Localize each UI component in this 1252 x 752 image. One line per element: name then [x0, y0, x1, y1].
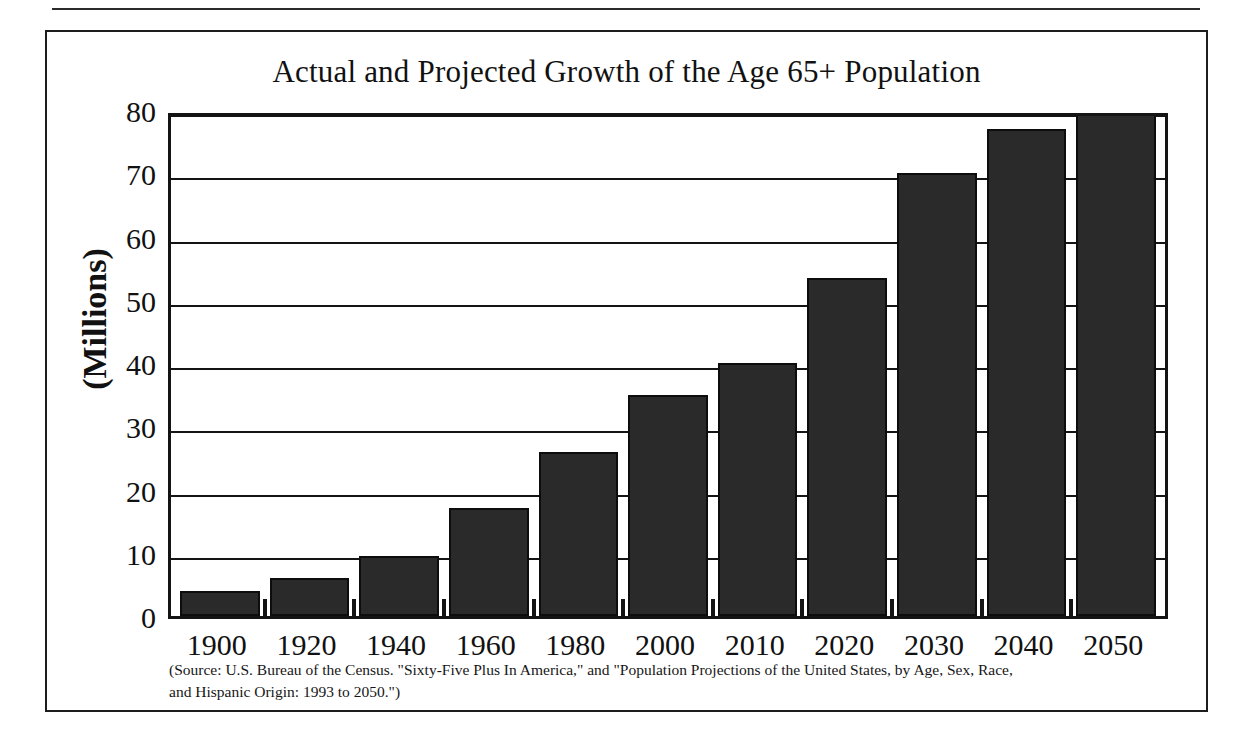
x-axis-tick [980, 599, 984, 616]
source-note-line-2: and Hispanic Origin: 1993 to 2050.") [169, 681, 1179, 703]
bar-1900 [180, 591, 260, 616]
page-top-rule [52, 8, 1200, 10]
y-axis-tick-label: 40 [72, 350, 156, 380]
source-note-line-1: (Source: U.S. Bureau of the Census. "Six… [169, 659, 1179, 681]
x-axis-tick-label: 1960 [434, 628, 538, 662]
x-axis-tick-label: 2020 [792, 628, 896, 662]
chart-title: Actual and Projected Growth of the Age 6… [47, 54, 1206, 90]
y-axis-tick-label: 70 [72, 160, 156, 190]
x-axis-tick-label: 1940 [344, 628, 448, 662]
x-axis-tick-label: 2010 [703, 628, 807, 662]
x-axis-tick-label: 2050 [1061, 628, 1165, 662]
bar-2010 [718, 363, 798, 616]
bar-1920 [270, 578, 350, 616]
x-axis-tick-label: 1900 [165, 628, 269, 662]
bar-2020 [807, 278, 887, 616]
y-axis-tick-label: 50 [72, 287, 156, 317]
x-axis-tick [1069, 599, 1073, 616]
x-axis-tick-label: 1920 [255, 628, 359, 662]
y-axis-tick-label: 60 [72, 224, 156, 254]
y-axis-tick-label: 20 [72, 477, 156, 507]
x-axis-tick [442, 599, 446, 616]
x-axis-tick [352, 599, 356, 616]
x-axis-tick [890, 599, 894, 616]
bar-2030 [897, 173, 977, 616]
bar-2050 [1076, 116, 1156, 616]
x-axis-tick-label: 2030 [882, 628, 986, 662]
y-axis-tick-label: 80 [72, 97, 156, 127]
bar-2040 [987, 129, 1067, 616]
bar-1940 [359, 556, 439, 616]
bar-2000 [628, 395, 708, 616]
source-note: (Source: U.S. Bureau of the Census. "Six… [169, 659, 1179, 704]
figure-container: Actual and Projected Growth of the Age 6… [45, 30, 1208, 712]
x-axis-tick-label: 2000 [613, 628, 717, 662]
x-axis-tick [800, 599, 804, 616]
bar-series [171, 116, 1165, 616]
x-axis-tick [263, 599, 267, 616]
x-axis-tick [621, 599, 625, 616]
plot-inner [171, 116, 1165, 616]
bar-1980 [539, 452, 619, 616]
x-axis-tick [711, 599, 715, 616]
x-axis-tick [532, 599, 536, 616]
y-axis-tick-label: 0 [72, 603, 156, 633]
bar-1960 [449, 508, 529, 616]
x-axis-tick-label: 2040 [972, 628, 1076, 662]
y-axis-tick-label: 10 [72, 540, 156, 570]
x-axis-tick-label: 1980 [524, 628, 628, 662]
y-axis-tick-label: 30 [72, 413, 156, 443]
plot-area [168, 113, 1168, 619]
